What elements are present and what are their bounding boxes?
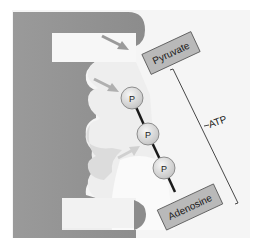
phosphate-3: P — [153, 157, 175, 179]
phosphate-1: P — [121, 87, 143, 109]
phosphate-1-label: P — [129, 94, 135, 104]
phosphate-2: P — [137, 123, 159, 145]
phosphate-2-label: P — [145, 130, 151, 140]
enzyme-binding-diagram: P P P Pyruvate Adenosine ATP — [0, 0, 253, 245]
phosphate-3-label: P — [161, 164, 167, 174]
lower-slot — [62, 198, 136, 228]
